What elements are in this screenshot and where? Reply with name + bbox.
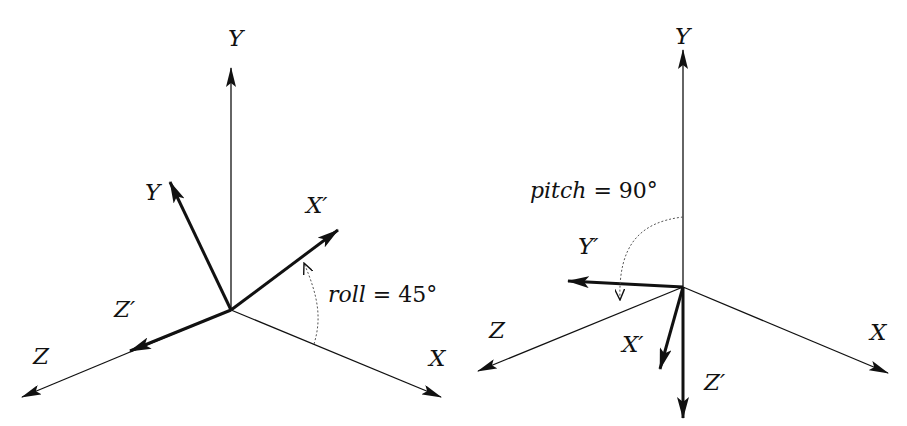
y-rotated-axis <box>170 182 231 310</box>
pitch-diagram: Y Z X Y′ X′ Z′ pitch = 90° <box>478 23 888 418</box>
pitch-value: = 90° <box>586 178 657 203</box>
x-rotated-axis <box>660 287 683 369</box>
z-rotated-label: Z′ <box>703 369 726 395</box>
x-axis-label: X <box>868 319 888 345</box>
z-rotated-axis <box>130 310 231 351</box>
roll-diagram: Y Z X Y X′ Z′ roll = 45° <box>22 25 447 397</box>
rotation-diagrams: Y Z X Y X′ Z′ roll = 45° Y Z X Y′ X′ Z′ … <box>0 0 907 426</box>
y-rotated-label: Y′ <box>578 233 599 259</box>
roll-variable: roll <box>328 282 366 307</box>
roll-annotation: roll = 45° <box>328 282 437 307</box>
x-rotated-label: X′ <box>620 331 644 357</box>
y-axis-label: Y <box>675 23 693 49</box>
x-rotated-label: X′ <box>304 192 328 218</box>
z-rotated-label: Z′ <box>113 296 136 322</box>
y-rotated-axis <box>568 281 683 287</box>
y-axis-label: Y <box>228 25 246 51</box>
z-axis-label: Z <box>488 317 506 343</box>
z-axis <box>478 287 683 371</box>
z-axis-label: Z <box>32 343 50 369</box>
y-rotated-label: Y <box>145 179 163 205</box>
pitch-variable: pitch <box>530 178 586 203</box>
x-axis <box>231 310 441 397</box>
x-axis <box>683 287 888 373</box>
roll-value: = 45° <box>366 282 437 307</box>
pitch-annotation: pitch = 90° <box>530 178 658 203</box>
roll-angle-arc <box>304 263 318 344</box>
x-axis-label: X <box>427 345 447 371</box>
x-rotated-axis <box>231 230 338 310</box>
